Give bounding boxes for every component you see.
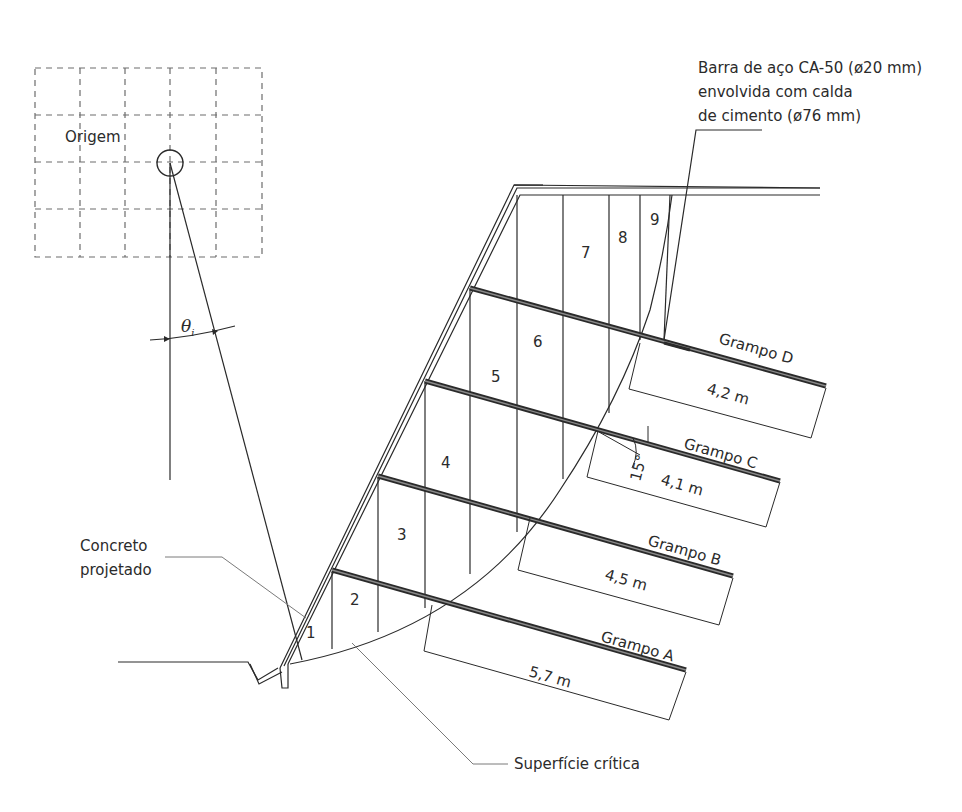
slice-label: 7 bbox=[581, 244, 591, 262]
origin-grid bbox=[35, 68, 262, 257]
shotcrete-leader-line bbox=[165, 557, 306, 618]
critical-surface-arc bbox=[290, 195, 672, 664]
slice-label: 9 bbox=[650, 211, 660, 229]
soil-nailing-diagram: Origem θi 1 2 3 4 5 6 7 8 9 bbox=[0, 0, 962, 812]
bar-label-line1: Barra de aço CA-50 (ø20 mm) bbox=[698, 59, 922, 77]
angle-label: 15° bbox=[626, 453, 650, 483]
slice-label: 3 bbox=[397, 526, 407, 544]
nail-a-label: Grampo A bbox=[599, 628, 677, 666]
slice-label: 2 bbox=[350, 591, 360, 609]
shotcrete-label-line1: Concreto bbox=[80, 537, 148, 555]
theta-label: θi bbox=[181, 316, 194, 338]
wall-footing bbox=[280, 664, 288, 688]
arrow-icon bbox=[164, 336, 170, 342]
nail-d bbox=[470, 288, 826, 386]
ground-line-left-inner bbox=[250, 664, 282, 684]
bar-leader-line bbox=[664, 130, 762, 340]
slice-label: 4 bbox=[441, 454, 451, 472]
nail-d-label: Grampo D bbox=[717, 330, 796, 368]
nail-b-length: 4,5 m bbox=[603, 566, 650, 595]
origin-label: Origem bbox=[65, 128, 121, 146]
slice-label: 5 bbox=[491, 368, 501, 386]
radius-line bbox=[170, 163, 302, 660]
slice-label: 8 bbox=[618, 229, 628, 247]
nail-a-length: 5,7 m bbox=[527, 663, 574, 692]
nail-d-length: 4,2 m bbox=[705, 380, 752, 409]
shotcrete-facing bbox=[280, 185, 820, 668]
shotcrete-label-line2: projetado bbox=[80, 561, 152, 579]
nail-c-length: 4,1 m bbox=[659, 471, 706, 500]
slice-label: 6 bbox=[533, 333, 543, 351]
critical-surface-label: Superfície crítica bbox=[514, 755, 640, 773]
slice-label: 1 bbox=[306, 624, 316, 642]
dim-nail-a bbox=[424, 605, 686, 720]
ground-line-left bbox=[118, 662, 278, 680]
bar-label-line3: de cimento (ø76 mm) bbox=[698, 107, 861, 125]
critical-surface-leader-line bbox=[352, 643, 508, 764]
bar-label-line2: envolvida com calda bbox=[698, 83, 853, 101]
